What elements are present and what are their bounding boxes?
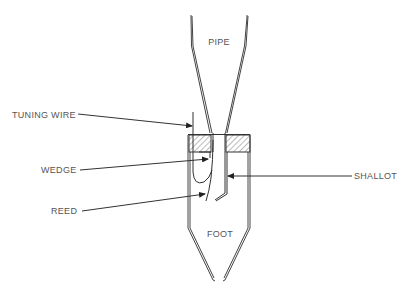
pipe-right-wall xyxy=(227,16,248,133)
label-wedge: WEDGE xyxy=(41,165,77,175)
block-left-hatched xyxy=(189,135,211,152)
foot-right-wall-inner xyxy=(224,152,248,278)
pipe-left-wall-inner xyxy=(191,17,210,133)
label-reed: REED xyxy=(51,206,77,216)
foot-left-wall-inner xyxy=(190,152,214,278)
reed-leader xyxy=(82,194,205,211)
shallot-right xyxy=(215,133,225,200)
tuning-wire-leader xyxy=(78,114,192,126)
pipe-right-wall-inner xyxy=(226,17,248,133)
label-tuning-wire: TUNING WIRE xyxy=(12,110,76,120)
label-foot: FOOT xyxy=(207,229,233,239)
foot xyxy=(188,135,250,281)
foot-left-wall xyxy=(188,135,215,281)
block xyxy=(188,134,250,152)
label-pipe: PIPE xyxy=(208,37,230,47)
wedge-leader xyxy=(80,159,208,170)
pipe xyxy=(190,16,248,133)
label-shallot: SHALLOT xyxy=(354,171,397,181)
reed-pipe-diagram: PIPE FOOT TUNING WIRE WEDGE REED SHALLOT xyxy=(0,0,410,296)
block-right-hatched xyxy=(226,135,250,152)
